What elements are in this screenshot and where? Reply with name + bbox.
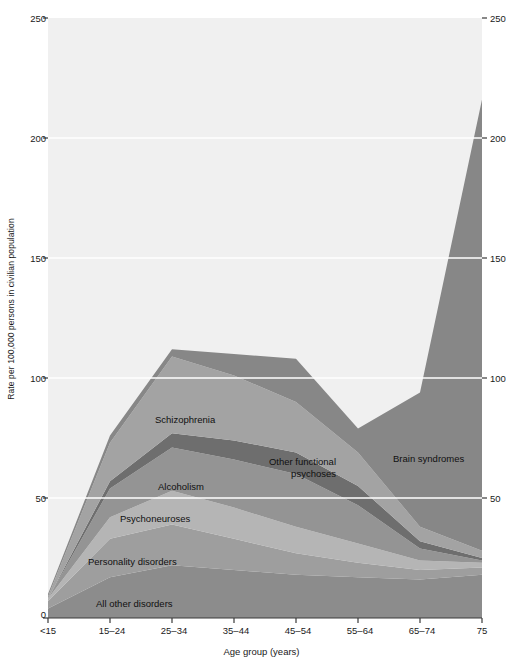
x-tick-35-44: 35–44 xyxy=(212,625,260,636)
x-tick-65-74: 65–74 xyxy=(398,625,446,636)
y-tick-left-50: 50 xyxy=(20,493,46,504)
y-tick-right-100: 100 xyxy=(490,373,520,384)
y-tick-right-200: 200 xyxy=(490,133,520,144)
x-tick-45-54: 45–54 xyxy=(274,625,322,636)
x-tick-lt15: <15 xyxy=(28,625,68,636)
x-tick-75: 75 xyxy=(462,625,502,636)
y-tick-left-0: 0 xyxy=(20,609,46,620)
y-tick-left-100: 100 xyxy=(20,373,46,384)
y-tick-left-200: 200 xyxy=(20,133,46,144)
y-tick-left-150: 150 xyxy=(20,253,46,264)
y-tick-left-250: 250 xyxy=(20,13,46,24)
y-tick-right-150: 150 xyxy=(490,253,520,264)
y-tick-right-250: 250 xyxy=(490,13,520,24)
stacked-area-chart-figure: Rate per 100,000 persons in civilian pop… xyxy=(0,0,523,670)
x-tick-55-64: 55–64 xyxy=(336,625,384,636)
x-axis-title: Age group (years) xyxy=(0,646,523,657)
chart-plot-area xyxy=(0,0,523,670)
x-tick-15-24: 15–24 xyxy=(88,625,136,636)
x-tick-25-34: 25–34 xyxy=(150,625,198,636)
y-tick-right-50: 50 xyxy=(490,493,520,504)
